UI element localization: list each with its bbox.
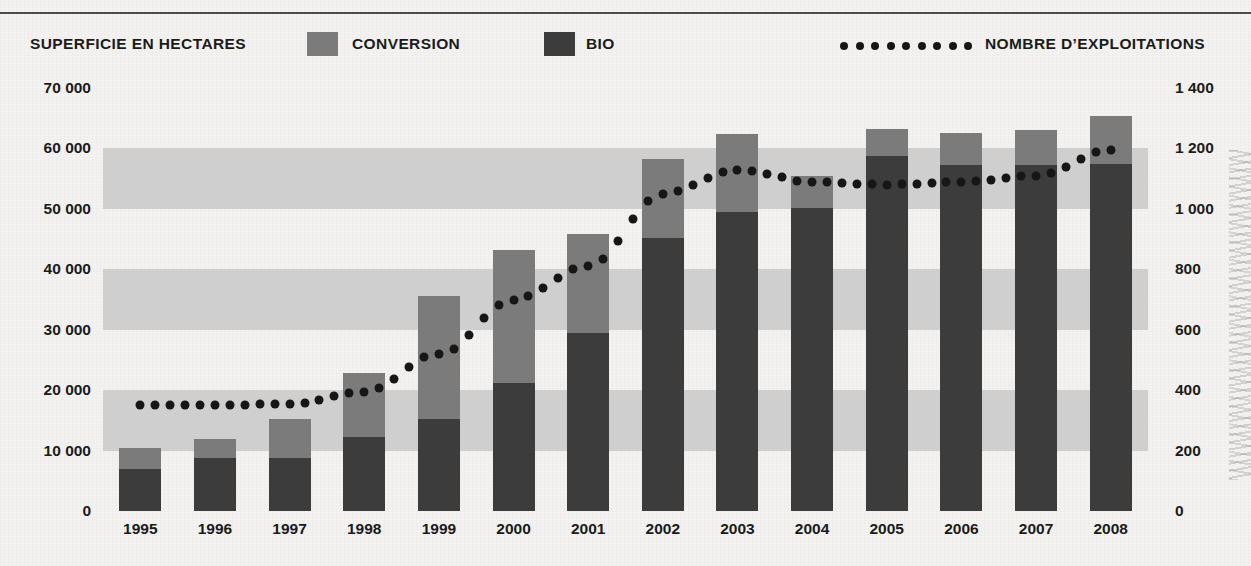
bar-segment-conversion <box>269 419 311 458</box>
table-row <box>194 439 236 512</box>
left-axis-tick: 30 000 <box>44 321 91 339</box>
left-axis-tick: 60 000 <box>44 139 91 157</box>
x-axis-tick-1995: 1995 <box>105 518 175 540</box>
bar-segment-conversion <box>791 176 833 207</box>
x-axis-tick-2003: 2003 <box>702 518 772 540</box>
table-row <box>418 296 460 511</box>
right-axis-tick: 1 000 <box>1175 200 1214 218</box>
right-axis-tick: 400 <box>1175 381 1201 399</box>
bar-segment-conversion <box>343 373 385 437</box>
legend-left-axis-title: SUPERFICIE EN HECTARES <box>30 31 246 57</box>
x-axis-tick-2004: 2004 <box>777 518 847 540</box>
right-axis-tick: 1 200 <box>1175 139 1214 157</box>
bar-segment-bio <box>418 419 460 511</box>
bar-segment-bio <box>940 165 982 511</box>
right-axis-tick: 1 400 <box>1175 79 1214 97</box>
table-row <box>493 250 535 511</box>
legend-dot <box>964 42 972 50</box>
bar-segment-bio <box>1015 165 1057 511</box>
bar-segment-bio <box>567 333 609 511</box>
legend-dot <box>902 42 910 50</box>
table-row <box>642 159 684 511</box>
x-axis-tick-1996: 1996 <box>180 518 250 540</box>
bar-segment-bio <box>791 208 833 511</box>
bar-segment-conversion <box>940 133 982 166</box>
legend-swatch-conversion <box>307 32 338 56</box>
x-axis-tick-1997: 1997 <box>255 518 325 540</box>
right-axis-tick: 800 <box>1175 260 1201 278</box>
bar-series-group <box>103 88 1148 511</box>
legend-label-nombre-exploitations: NOMBRE D’EXPLOITATIONS <box>985 31 1205 57</box>
table-row <box>716 134 758 511</box>
bar-segment-bio <box>343 437 385 511</box>
legend-dot <box>933 42 941 50</box>
left-axis-tick: 70 000 <box>44 79 91 97</box>
legend-label-conversion: CONVERSION <box>352 31 460 57</box>
x-axis-tick-2008: 2008 <box>1076 518 1146 540</box>
bar-segment-conversion <box>119 448 161 469</box>
left-axis-tick: 50 000 <box>44 200 91 218</box>
bar-segment-conversion <box>866 129 908 156</box>
page-edge-texture <box>1229 150 1251 480</box>
x-axis-tick-2000: 2000 <box>479 518 549 540</box>
legend-dot <box>949 42 957 50</box>
chart-legend: SUPERFICIE EN HECTARES CONVERSION BIO NO… <box>0 31 1251 57</box>
legend-dot <box>918 42 926 50</box>
left-axis-tick: 40 000 <box>44 260 91 278</box>
right-axis-tick: 200 <box>1175 442 1201 460</box>
table-row <box>940 133 982 511</box>
bar-segment-bio <box>493 383 535 511</box>
table-row <box>791 176 833 511</box>
bar-segment-conversion <box>1090 116 1132 163</box>
legend-dot <box>856 42 864 50</box>
bar-segment-bio <box>716 212 758 511</box>
left-axis-tick: 10 000 <box>44 442 91 460</box>
bar-segment-conversion <box>642 159 684 238</box>
right-axis-tick: 0 <box>1175 502 1184 520</box>
x-axis-tick-1999: 1999 <box>404 518 474 540</box>
bar-segment-bio <box>269 458 311 511</box>
legend-swatch-bio <box>544 32 575 56</box>
bar-segment-conversion <box>1015 130 1057 165</box>
bar-segment-conversion <box>716 134 758 213</box>
legend-dotted-line-marker <box>840 42 971 50</box>
table-row <box>119 448 161 511</box>
bar-segment-bio <box>866 156 908 511</box>
table-row <box>567 234 609 511</box>
left-axis-tick: 0 <box>82 502 91 520</box>
bar-segment-bio <box>642 238 684 511</box>
legend-label-bio: BIO <box>586 31 615 57</box>
header-divider-rule <box>0 12 1251 14</box>
bar-segment-conversion <box>418 296 460 418</box>
legend-dot <box>887 42 895 50</box>
bar-segment-bio <box>194 458 236 511</box>
legend-dot <box>840 42 848 50</box>
right-axis-tick: 600 <box>1175 321 1201 339</box>
plot-area <box>103 88 1148 511</box>
x-axis-tick-2002: 2002 <box>628 518 698 540</box>
left-axis-tick: 20 000 <box>44 381 91 399</box>
x-axis-tick-2007: 2007 <box>1001 518 1071 540</box>
x-axis-tick-1998: 1998 <box>329 518 399 540</box>
table-row <box>1090 116 1132 511</box>
x-axis-tick-2006: 2006 <box>926 518 996 540</box>
bar-segment-conversion <box>567 234 609 333</box>
bar-segment-conversion <box>493 250 535 383</box>
bar-segment-bio <box>1090 164 1132 511</box>
x-axis-tick-2005: 2005 <box>852 518 922 540</box>
legend-dot <box>871 42 879 50</box>
table-row <box>866 129 908 511</box>
chart-page: SUPERFICIE EN HECTARES CONVERSION BIO NO… <box>0 0 1251 566</box>
x-axis-tick-2001: 2001 <box>553 518 623 540</box>
table-row <box>269 419 311 511</box>
x-axis-tick-labels: 1995199619971998199920002001200220032004… <box>103 518 1148 540</box>
table-row <box>343 373 385 511</box>
bar-segment-conversion <box>194 439 236 459</box>
bar-segment-bio <box>119 469 161 511</box>
table-row <box>1015 130 1057 511</box>
